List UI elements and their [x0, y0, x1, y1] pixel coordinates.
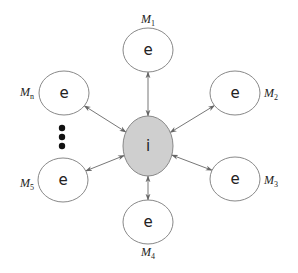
machine-label: M4: [140, 245, 155, 261]
node-m1: eM1: [123, 12, 173, 72]
node-mn: eMn: [19, 71, 89, 115]
node-label: e: [59, 84, 68, 102]
center-node: i: [123, 116, 173, 176]
edge-m2: [170, 106, 214, 133]
machine-label: M3: [263, 173, 278, 189]
star-topology-diagram: eM1eM2eM3eM4eM5eMn i: [0, 0, 298, 273]
ellipsis-dot: [59, 143, 65, 149]
node-m5: eM5: [19, 158, 88, 202]
node-label: e: [58, 171, 67, 189]
node-label: e: [230, 84, 239, 102]
node-label: e: [143, 41, 152, 59]
edge-m5: [86, 155, 125, 170]
edge-mn: [84, 106, 126, 132]
node-m4: eM4: [123, 200, 173, 261]
machine-label: M5: [19, 176, 34, 192]
edge-m3: [172, 155, 212, 170]
machine-label: M1: [140, 12, 155, 28]
machine-label: M2: [263, 86, 278, 102]
ellipsis-dots: [59, 125, 65, 149]
node-m3: eM3: [210, 157, 278, 201]
ellipsis-dot: [59, 125, 65, 131]
node-label: e: [143, 213, 152, 231]
machine-label: Mn: [19, 85, 34, 101]
node-m2: eM2: [210, 71, 278, 115]
center-label: i: [146, 137, 150, 155]
node-label: e: [230, 170, 239, 188]
ellipsis-dot: [59, 134, 65, 140]
